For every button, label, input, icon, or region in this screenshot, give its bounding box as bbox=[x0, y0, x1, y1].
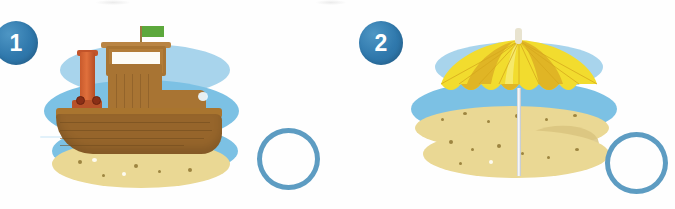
water-bubble bbox=[198, 92, 208, 101]
sand-pebble bbox=[102, 174, 105, 177]
boat-hull bbox=[56, 114, 222, 154]
exercise-item-1: 1 bbox=[0, 0, 340, 209]
item-number-badge-1: 1 bbox=[0, 21, 38, 65]
answer-circle-2[interactable] bbox=[605, 132, 668, 194]
sand-pebble bbox=[134, 164, 138, 168]
worksheet-page: 1 bbox=[0, 0, 675, 209]
sand-pebble bbox=[188, 168, 192, 172]
porthole bbox=[76, 96, 85, 105]
picture-tugboat-on-water bbox=[38, 22, 248, 202]
exercise-item-2: 2 bbox=[335, 0, 675, 209]
porthole bbox=[92, 96, 101, 105]
beach-umbrella bbox=[439, 26, 599, 176]
picture-beach-umbrella-on-sand bbox=[397, 22, 627, 202]
sand-pebble bbox=[158, 170, 161, 173]
green-flag bbox=[142, 26, 164, 37]
umbrella-pole bbox=[517, 88, 521, 176]
umbrella-canopy bbox=[439, 40, 599, 98]
tugboat bbox=[56, 30, 236, 160]
sand-pebble bbox=[78, 160, 82, 164]
deckhouse bbox=[108, 64, 162, 112]
answer-circle-1[interactable] bbox=[257, 128, 320, 190]
umbrella-finial bbox=[515, 28, 522, 44]
sand-pebble bbox=[122, 172, 126, 176]
